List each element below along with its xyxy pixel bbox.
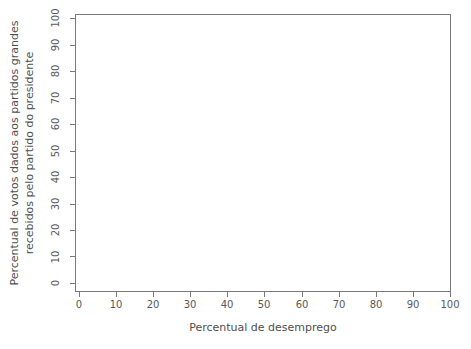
x-tick-mark	[339, 292, 340, 297]
x-tick-label: 80	[356, 299, 396, 311]
y-tick-label: 70	[44, 92, 68, 104]
x-tick-label: 40	[207, 299, 247, 311]
y-axis-title-line2: recebidos pelo partido do presidente	[22, 20, 37, 285]
y-tick-label: 60	[44, 118, 68, 130]
x-tick-mark	[413, 292, 414, 297]
y-tick-label: 50	[44, 145, 68, 157]
x-tick-label: 30	[170, 299, 210, 311]
x-tick-mark	[302, 292, 303, 297]
x-tick-mark	[450, 292, 451, 297]
chart-figure: Percentual de votos dados aos partidos g…	[0, 0, 471, 349]
x-tick-mark	[79, 292, 80, 297]
x-axis-title: Percentual de desemprego	[75, 321, 451, 334]
y-axis-title-line1: Percentual de votos dados aos partidos g…	[7, 20, 22, 285]
y-tick-label: 80	[44, 65, 68, 77]
x-tick-mark	[376, 292, 377, 297]
x-tick-label: 0	[59, 299, 99, 311]
y-axis-title: Percentual de votos dados aos partidos g…	[0, 0, 44, 306]
x-tick-mark	[116, 292, 117, 297]
x-tick-label: 20	[133, 299, 173, 311]
x-tick-label: 50	[244, 299, 284, 311]
y-tick-label: 40	[44, 171, 68, 183]
x-tick-mark	[153, 292, 154, 297]
x-tick-mark	[190, 292, 191, 297]
y-tick-label: 90	[44, 39, 68, 51]
x-tick-label: 10	[96, 299, 136, 311]
x-tick-label: 70	[319, 299, 359, 311]
x-tick-mark	[227, 292, 228, 297]
x-tick-mark	[264, 292, 265, 297]
plot-data-area	[76, 15, 450, 291]
x-tick-label: 90	[393, 299, 433, 311]
y-tick-label: 20	[44, 224, 68, 236]
y-tick-label: 10	[44, 251, 68, 263]
y-tick-label: 30	[44, 198, 68, 210]
x-tick-label: 60	[282, 299, 322, 311]
y-tick-label: 100	[44, 12, 68, 24]
x-tick-label: 100	[430, 299, 470, 311]
y-tick-label: 0	[44, 277, 68, 289]
